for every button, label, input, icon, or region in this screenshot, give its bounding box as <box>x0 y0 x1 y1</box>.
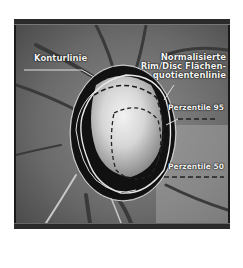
contour-line-label: Konturlinie <box>34 54 87 63</box>
percentile-95-label: Perzentile 95 <box>168 103 224 112</box>
optic-disc-photo: Konturlinie Normalisierte Rim/Disc Fläch… <box>16 25 228 223</box>
frame-bottom-bar <box>14 223 230 229</box>
percentile-50-label: Perzentile 50 <box>168 162 224 171</box>
rim-disc-ratio-label-line3: quotientenlinie <box>153 71 226 80</box>
fundus-figure: Konturlinie Normalisierte Rim/Disc Fläch… <box>14 19 230 229</box>
